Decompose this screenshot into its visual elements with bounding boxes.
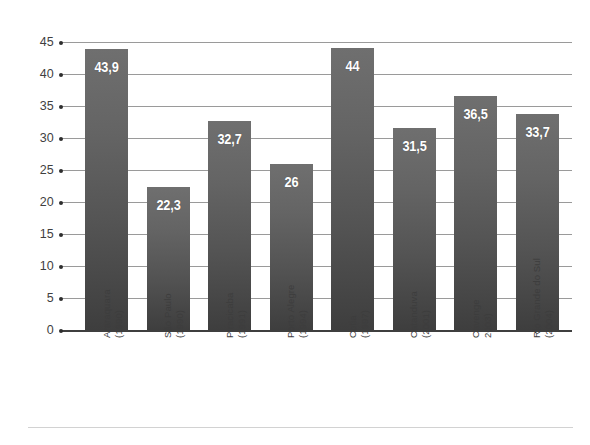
x-axis-label-line1: Araraquara: [101, 289, 112, 338]
footer-divider: [28, 427, 573, 428]
x-axis-label-line1: Cotia: [347, 315, 358, 338]
x-axis-label-line2: (1997): [358, 310, 370, 338]
x-axis-category-label: Cotia(1997): [347, 310, 370, 338]
x-axis-label-line1: Piracicaba: [224, 293, 235, 338]
x-axis-category-label: Piracicaba(1991): [224, 293, 247, 338]
x-axis-label-line2: (1994): [297, 285, 309, 338]
x-axis-label-line1: Rio Grande do Sul: [531, 258, 542, 338]
x-axis-category-label: Rio Grande do Sul(2004): [531, 258, 554, 338]
bar-chart: 051015202530354045 43,922,332,7264431,53…: [0, 0, 590, 445]
x-axis-label-line1: São Paulo: [162, 293, 173, 338]
x-axis-category-label: Porto Alegre(1994): [285, 285, 308, 338]
x-axis-label-line2: (1990): [112, 289, 124, 338]
x-axis-label-line2: (1991): [235, 293, 247, 338]
x-axis-category-label: Cavenge2003): [470, 299, 493, 338]
x-axis-label-line1: Catanduva: [408, 291, 419, 338]
x-axis-label-line1: Porto Alegre: [285, 285, 296, 338]
x-axis-label-line2: (2001): [420, 291, 432, 338]
x-axis-label-line2: 2003): [481, 299, 493, 338]
x-axis-category-label: Catanduva(2001): [408, 291, 431, 338]
x-axis-label-line2: (1990): [174, 293, 186, 338]
x-axis-category-label: São Paulo(1990): [162, 293, 185, 338]
x-axis-label-line1: Cavenge: [470, 299, 481, 338]
x-axis: Araraquara(1990)São Paulo(1990)Piracicab…: [0, 0, 590, 445]
x-axis-label-line2: (2004): [543, 258, 555, 338]
x-axis-category-label: Araraquara(1990): [101, 289, 124, 338]
